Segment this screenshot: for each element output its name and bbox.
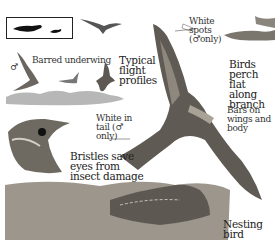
grass-strip (6, 91, 124, 106)
label-white-in-tail: White in tail (♂ only) (96, 114, 132, 141)
label-typical-flight-profiles: Typical flight profiles (119, 55, 157, 85)
flight-profile-icon (58, 72, 79, 83)
perched-silhouette-icon (13, 25, 61, 33)
flight-profile-icon (96, 62, 115, 91)
head-closeup-icon (8, 119, 70, 173)
label-male-symbol: ♂ (10, 63, 18, 72)
nesting-bird-icon (5, 182, 230, 240)
label-bristles: Bristles save eyes from insect damage (70, 151, 143, 181)
label-white-spots: White spots (♂only) (189, 17, 221, 44)
perched-bird-icon (224, 16, 275, 41)
flying-silhouette-icon (80, 19, 122, 34)
label-bars-on-wings: Bars on wings and body (227, 106, 275, 133)
label-barred-underwing: Barred underwing (32, 56, 111, 65)
label-birds-perch: Birds perch flat along branch (229, 59, 275, 109)
label-nesting-bird: Nesting bird (223, 219, 263, 239)
